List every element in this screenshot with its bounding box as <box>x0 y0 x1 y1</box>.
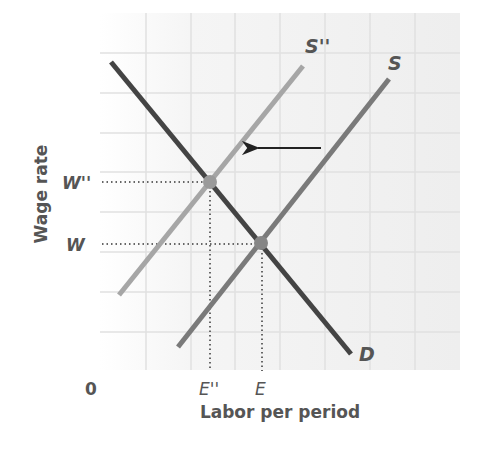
curve-label-s: S <box>388 52 402 74</box>
equilibrium-point-original <box>254 236 268 250</box>
labor-market-chart: S'' S D W'' W 0 E'' E Labor per period W… <box>0 0 483 449</box>
y-axis-title: Wage rate <box>31 145 51 244</box>
y-tick-w-double: W'' <box>62 173 91 193</box>
x-axis-title: Labor per period <box>200 402 360 422</box>
y-tick-w: W <box>66 235 86 255</box>
x-tick-e-double: E'' <box>199 379 219 399</box>
equilibrium-point-new <box>203 175 217 189</box>
curve-label-s-double: S'' <box>305 35 330 57</box>
x-tick-e: E <box>255 379 266 399</box>
origin-label: 0 <box>85 379 97 399</box>
curve-label-d: D <box>359 343 375 365</box>
